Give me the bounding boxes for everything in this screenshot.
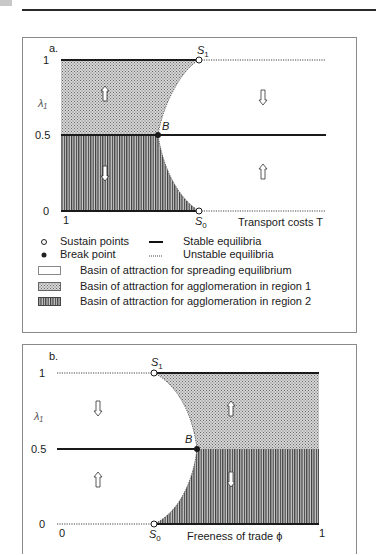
point-label-s1: S1 (151, 356, 163, 373)
y-tick-1: 1 (43, 54, 49, 66)
point-label-s0: S0 (195, 215, 207, 232)
stable-line-legend-icon (149, 237, 163, 247)
basin-region1-area (154, 373, 319, 449)
y-tick-0.5: 0.5 (31, 443, 46, 455)
region2-basin-swatch-icon (38, 297, 61, 306)
corner-mark (0, 0, 12, 6)
region1-basin-swatch-icon (38, 282, 61, 291)
panel-a-transport-costs: a. S1 B S0 1 0.5 0 λ₁ 1 Transport costs … (22, 37, 357, 333)
y-tick-0.5: 0.5 (35, 129, 50, 141)
panel-b-freeness-of-trade: b. S1 B S0 1 0.5 0 λ₁ 0 1 Freeness of tr… (22, 344, 357, 554)
panel-a-label: a. (49, 42, 58, 54)
arrow-down-icon (94, 401, 102, 416)
break-point-b (194, 446, 200, 452)
y-tick-0: 0 (39, 518, 45, 530)
legend-basin-region1: Basin of attraction for agglomeration in… (80, 280, 311, 293)
panel-b-label: b. (49, 350, 58, 362)
sustain-point-legend-icon (39, 237, 49, 247)
sustain-point-s0 (196, 208, 202, 214)
unstable-line-legend-icon (149, 250, 163, 260)
point-label-s1: S1 (197, 44, 209, 61)
x-axis-label: Transport costs T (238, 216, 323, 228)
legend-sustain-points: Sustain points (60, 235, 129, 248)
y-axis-label: λ₁ (34, 410, 43, 422)
legend-break-point: Break point (60, 248, 116, 261)
arrow-down-icon (259, 90, 267, 105)
point-label-s0: S0 (149, 528, 161, 545)
basin-region2-area (154, 449, 319, 524)
top-rule (22, 9, 376, 11)
basin-region2-area (61, 135, 199, 211)
break-point-b (155, 132, 161, 138)
point-label-b: B (162, 120, 169, 132)
break-point-legend-icon (39, 250, 49, 260)
legend-basin-region2: Basin of attraction for agglomeration in… (80, 295, 311, 308)
x-tick-1: 1 (319, 527, 325, 539)
arrow-up-icon (94, 472, 102, 487)
y-tick-0: 0 (43, 205, 49, 217)
sustain-point-s0 (151, 521, 157, 527)
x-axis-label: Freeness of trade ϕ (187, 530, 282, 542)
y-tick-1: 1 (39, 367, 45, 379)
legend-unstable-equilibria: Unstable equilibria (183, 248, 274, 261)
arrow-up-icon (259, 164, 267, 179)
spreading-basin-swatch-icon (38, 266, 61, 275)
y-axis-label: λ₁ (38, 97, 47, 109)
legend-basin-spreading: Basin of attraction for spreading equili… (80, 264, 292, 277)
point-label-b: B (185, 433, 192, 445)
panel-b-plot (23, 345, 358, 555)
basin-region1-area (61, 60, 199, 135)
x-tick-0: 0 (59, 527, 65, 539)
legend-stable-equilibria: Stable equilibria (183, 235, 261, 248)
x-tick-1: 1 (63, 214, 69, 226)
